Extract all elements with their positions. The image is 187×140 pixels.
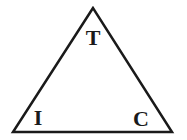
label-right-vertex: C — [133, 106, 149, 131]
label-top-vertex: T — [86, 25, 101, 50]
label-left-vertex: I — [34, 105, 43, 130]
triangle-diagram: T I C — [0, 0, 187, 140]
